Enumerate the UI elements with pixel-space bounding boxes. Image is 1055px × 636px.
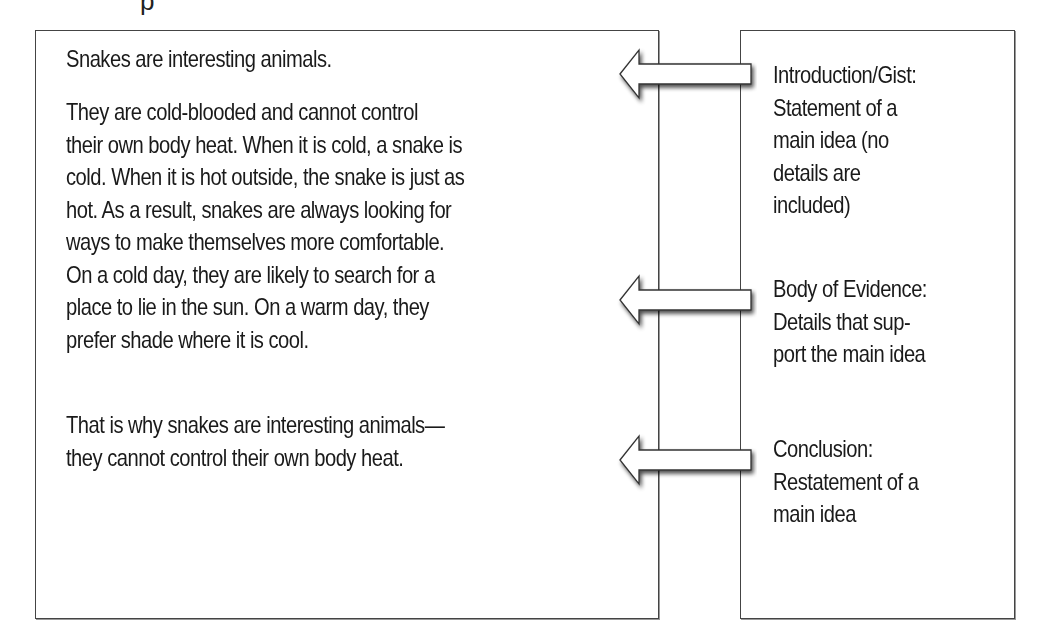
text-line: They are cold-blooded and cannot control bbox=[66, 96, 646, 129]
text-line: their own body heat. When it is cold, a … bbox=[66, 129, 646, 162]
text-line: prefer shade where it is cool. bbox=[66, 324, 646, 357]
label-line: Restatement of a bbox=[773, 466, 991, 499]
left-arrow-icon bbox=[617, 270, 757, 336]
label-line: main idea (no bbox=[773, 124, 991, 157]
conclusion-paragraph: That is why snakes are interesting anima… bbox=[66, 409, 646, 474]
label-body-of-evidence: Body of Evidence: Details that sup- port… bbox=[773, 273, 991, 371]
label-line: main idea bbox=[773, 498, 991, 531]
label-line: included) bbox=[773, 189, 991, 222]
label-line: Details that sup- bbox=[773, 306, 991, 339]
labels-box: Introduction/Gist: Statement of a main i… bbox=[740, 30, 1015, 619]
label-line: details are bbox=[773, 157, 991, 190]
text-line: On a cold day, they are likely to search… bbox=[66, 259, 646, 292]
label-conclusion: Conclusion: Restatement of a main idea bbox=[773, 433, 991, 531]
label-line: Statement of a bbox=[773, 92, 991, 125]
left-arrow-icon bbox=[617, 44, 757, 110]
text-line: ways to make themselves more comfortable… bbox=[66, 226, 646, 259]
passage-box: Snakes are interesting animals. They are… bbox=[35, 30, 659, 619]
text-line: place to lie in the sun. On a warm day, … bbox=[66, 291, 646, 324]
text-line: they cannot control their own body heat. bbox=[66, 442, 646, 475]
label-line: Body of Evidence: bbox=[773, 273, 991, 306]
text-line: Snakes are interesting animals. bbox=[66, 43, 646, 76]
text-line: hot. As a result, snakes are always look… bbox=[66, 194, 646, 227]
clipped-heading-fragment: p bbox=[140, 0, 154, 17]
body-paragraph: They are cold-blooded and cannot control… bbox=[66, 96, 646, 356]
text-line: cold. When it is hot outside, the snake … bbox=[66, 161, 646, 194]
label-line: port the main idea bbox=[773, 338, 991, 371]
label-line: Introduction/Gist: bbox=[773, 59, 991, 92]
label-introduction: Introduction/Gist: Statement of a main i… bbox=[773, 59, 991, 222]
label-line: Conclusion: bbox=[773, 433, 991, 466]
text-line: That is why snakes are interesting anima… bbox=[66, 409, 646, 442]
intro-paragraph: Snakes are interesting animals. bbox=[66, 43, 646, 76]
left-arrow-icon bbox=[617, 430, 757, 496]
